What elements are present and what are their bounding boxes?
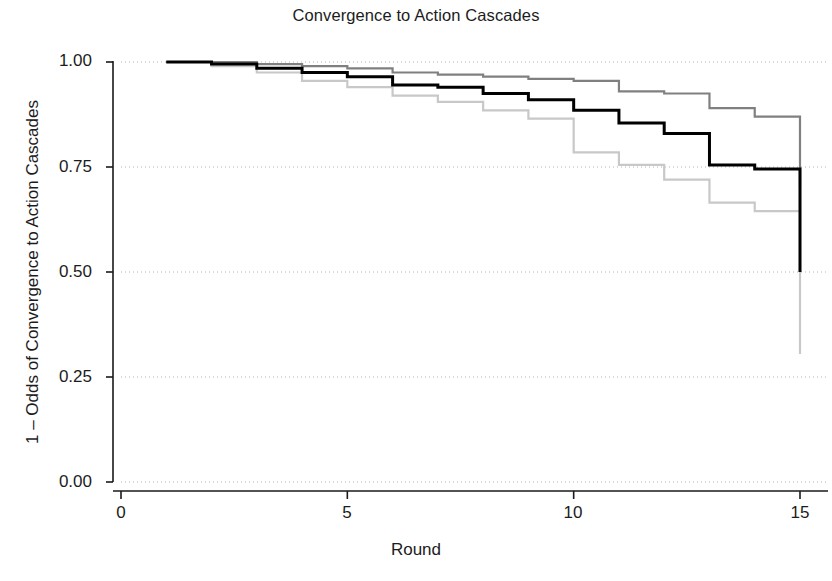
series-layer	[166, 62, 800, 354]
series-upper-curve	[166, 62, 800, 188]
axis-lines	[113, 61, 828, 491]
plot-area	[0, 0, 832, 581]
tick-marks	[106, 62, 800, 499]
series-lower-curve	[166, 62, 800, 354]
gridlines	[121, 62, 828, 482]
chart-container: Convergence to Action Cascades 1 – Odds …	[0, 0, 832, 581]
